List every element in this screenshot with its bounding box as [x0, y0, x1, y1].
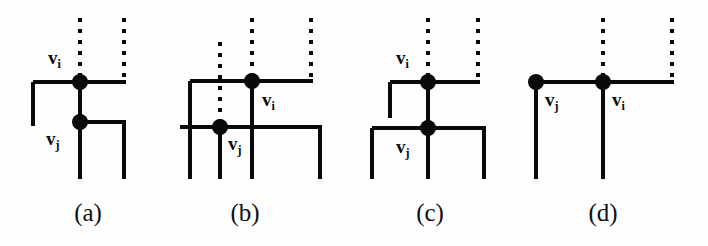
panel-caption-d: (d)	[573, 200, 633, 225]
vertex-label-subscript: i	[622, 99, 625, 113]
vertex-label-subscript: i	[58, 57, 61, 71]
vertex-node-vj	[212, 119, 228, 135]
vertex-label-subscript: j	[555, 99, 559, 113]
vertex-node-vj	[528, 74, 544, 90]
panel-b	[180, 18, 322, 179]
panel-c	[372, 18, 486, 179]
vertex-label-subscript: i	[272, 99, 275, 113]
figure-container: vivj(a)vivj(b)vivj(c)vjvi(d)	[0, 0, 708, 246]
vertex-node-vi	[244, 73, 260, 89]
vertex-label-base: v	[396, 136, 406, 157]
vertex-label-base: v	[46, 128, 56, 149]
vertex-label-vj: vj	[545, 90, 559, 109]
vertex-label-base: v	[545, 89, 555, 110]
vertex-label-base: v	[48, 47, 58, 68]
panel-caption-c: (c)	[400, 200, 460, 225]
vertex-label-subscript: j	[56, 138, 60, 152]
vertex-label-vi: vi	[396, 48, 409, 67]
vertex-node-vi	[72, 74, 88, 90]
vertex-label-vi: vi	[48, 48, 61, 67]
vertex-label-subscript: i	[406, 57, 409, 71]
vertex-label-vj: vj	[228, 134, 242, 153]
vertex-label-vi: vi	[262, 90, 275, 109]
panel-caption-b: (b)	[215, 200, 275, 225]
vertex-label-base: v	[396, 47, 406, 68]
vertex-node-vj	[72, 114, 88, 130]
vertex-label-base: v	[228, 133, 238, 154]
vertex-node-vi	[420, 74, 436, 90]
vertex-label-base: v	[612, 89, 622, 110]
vertex-label-subscript: j	[238, 143, 242, 157]
panel-caption-a: (a)	[58, 200, 118, 225]
vertex-node-vj	[420, 120, 436, 136]
panel-a	[33, 18, 126, 179]
vertex-label-vj: vj	[46, 129, 60, 148]
vertex-label-vi: vi	[612, 90, 625, 109]
vertex-node-vi	[595, 74, 611, 90]
vertex-label-subscript: j	[406, 146, 410, 160]
vertex-label-base: v	[262, 89, 272, 110]
vertex-label-vj: vj	[396, 137, 410, 156]
